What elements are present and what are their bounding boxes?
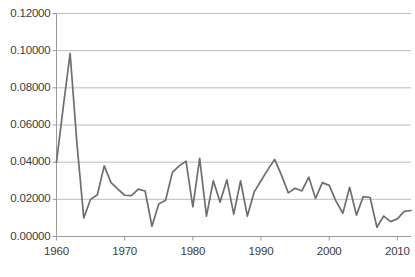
line-chart: 0.000000.020000.040000.060000.080000.100… [0,0,415,277]
gridlines [57,14,412,200]
axis-ticks [53,14,398,241]
chart-plot-area [0,0,415,277]
data-line-series-1 [57,53,412,227]
